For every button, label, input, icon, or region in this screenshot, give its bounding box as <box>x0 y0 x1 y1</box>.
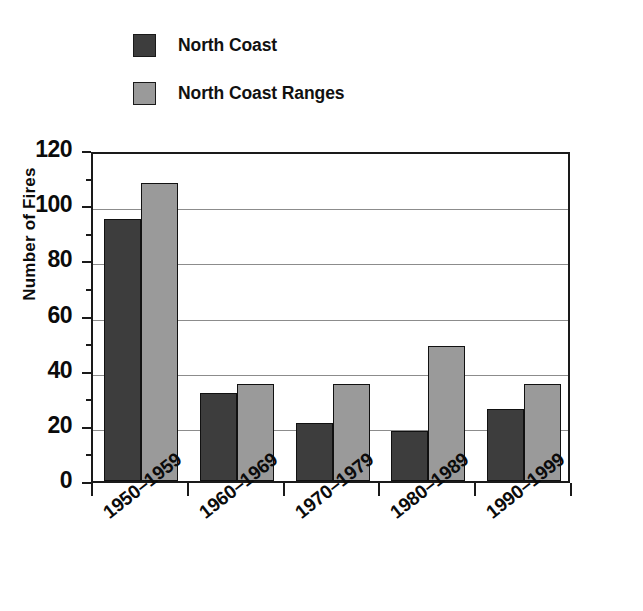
x-axis-separator-tick-0 <box>91 483 93 496</box>
y-tick-100 <box>82 206 91 208</box>
legend-item-north-coast-ranges: North Coast Ranges <box>133 76 463 110</box>
bar-north-coast-1990–1999 <box>487 409 524 481</box>
y-tick-label-0: 0 <box>6 467 72 494</box>
y-tick-20 <box>82 427 91 429</box>
bar-north-coast-ranges-1950–1959 <box>141 183 178 481</box>
legend-item-north-coast: North Coast <box>133 28 463 62</box>
x-axis-separator-tick-1 <box>187 483 189 496</box>
legend-swatch-north-coast-ranges <box>133 82 156 105</box>
y-tick-label-80: 80 <box>6 246 72 273</box>
y-tick-label-100: 100 <box>6 191 72 218</box>
bar-chart-figure: North Coast North Coast Ranges Number of… <box>0 0 643 611</box>
chart-legend: North Coast North Coast Ranges <box>133 28 463 124</box>
y-tick-label-60: 60 <box>6 302 72 329</box>
y-tick-120 <box>82 151 91 153</box>
x-axis-separator-tick-4 <box>474 483 476 496</box>
bar-north-coast-1950–1959 <box>104 219 141 481</box>
y-axis-title: Number of Fires <box>20 144 40 324</box>
y-tick-label-20: 20 <box>6 412 72 439</box>
legend-label-north-coast: North Coast <box>178 35 277 56</box>
legend-swatch-north-coast <box>133 34 156 57</box>
plot-area <box>91 152 570 483</box>
bars-layer <box>93 154 568 481</box>
y-tick-60 <box>82 317 91 319</box>
x-axis-separator-tick-5 <box>570 483 572 496</box>
bar-north-coast-1970–1979 <box>296 423 333 481</box>
y-tick-label-40: 40 <box>6 357 72 384</box>
legend-label-north-coast-ranges: North Coast Ranges <box>178 83 344 104</box>
bar-north-coast-1960–1969 <box>200 393 237 481</box>
y-tick-0 <box>82 482 91 484</box>
y-tick-label-120: 120 <box>6 136 72 163</box>
y-tick-80 <box>82 261 91 263</box>
x-axis-separator-tick-2 <box>283 483 285 496</box>
bar-north-coast-1980–1989 <box>391 431 428 481</box>
x-axis-separator-tick-3 <box>378 483 380 496</box>
y-tick-40 <box>82 372 91 374</box>
